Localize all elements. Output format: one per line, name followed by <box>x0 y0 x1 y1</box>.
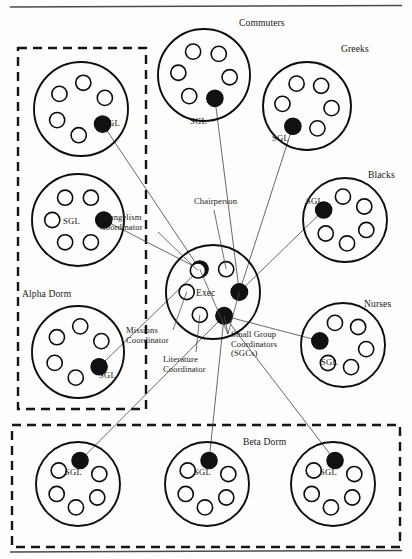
sgl-label-nurses: SGL <box>321 357 338 367</box>
group-leader-greeks <box>285 118 301 134</box>
group-member-alpha-2-2 <box>58 235 73 250</box>
small-group-alpha-1[interactable] <box>34 62 128 156</box>
sgl-label-beta-3: SGL <box>320 467 337 477</box>
exec-label: Exec <box>196 288 215 299</box>
top-rule <box>10 6 402 8</box>
group-name-blacks: Blacks <box>368 170 395 181</box>
group-member-beta-2-4 <box>178 486 193 501</box>
small-group-blacks[interactable] <box>303 178 387 262</box>
annotation-evangelism-coordinator: EvangelismCoordinator <box>100 213 143 232</box>
group-member-beta-2-1 <box>221 466 236 481</box>
annotation-evangelism-coordinator-line-1: Coordinator <box>100 223 143 233</box>
group-member-beta-1-3 <box>68 500 83 515</box>
sgl-label-greeks: SGL <box>272 133 289 143</box>
group-member-nurses-3 <box>359 341 374 356</box>
group-member-alpha-2-1 <box>83 235 98 250</box>
group-member-commuters-3 <box>186 44 201 59</box>
group-member-alpha-1-4 <box>76 75 91 90</box>
group-member-alpha-3-4 <box>73 319 88 334</box>
sgl-label-alpha-2: SGL <box>63 216 80 226</box>
group-member-blacks-5 <box>318 226 333 241</box>
group-member-blacks-3 <box>359 222 374 237</box>
group-member-nurses-1 <box>327 315 342 330</box>
sgl-label-commuters: SGL <box>190 116 207 126</box>
annotation-small-group-coordinators-line-2: (SGCs) <box>231 349 277 359</box>
leader-line-sgc-0 <box>200 269 228 334</box>
group-name-greeks: Greeks <box>341 44 369 55</box>
small-group-beta-1[interactable] <box>36 442 120 526</box>
annotation-chairperson-line-0: Chairperson <box>194 197 237 207</box>
small-group-alpha-3[interactable] <box>32 306 124 398</box>
connector-lines <box>80 98 335 460</box>
group-member-alpha-2-4 <box>58 190 73 205</box>
group-member-beta-3-3 <box>323 500 338 515</box>
group-member-alpha-1-2 <box>50 113 65 128</box>
group-member-alpha-2-3 <box>45 212 60 227</box>
group-box-label-alpha-dorm: Alpha Dorm <box>22 289 71 300</box>
group-member-greeks-2 <box>289 76 304 91</box>
small-group-beta-3[interactable] <box>291 442 375 526</box>
group-member-beta-2-3 <box>197 500 212 515</box>
annotation-literature-coordinator-line-1: Coordinator <box>163 365 206 375</box>
small-group-commuters[interactable] <box>158 29 250 121</box>
group-member-alpha-1-1 <box>71 128 86 143</box>
group-member-greeks-5 <box>310 121 325 136</box>
annotation-small-group-coordinators: Small GroupCoordinators(SGCs) <box>231 330 277 359</box>
group-member-blacks-2 <box>357 199 372 214</box>
group-member-beta-3-1 <box>347 466 362 481</box>
group-box-label-beta-dorm: Beta Dorm <box>243 437 286 448</box>
group-member-beta-1-2 <box>90 490 105 505</box>
sgl-label-blacks: SGL <box>306 196 323 206</box>
group-member-nurses-2 <box>351 319 366 334</box>
sgl-label-alpha-1: SGL <box>103 118 120 128</box>
annotation-leader-lines <box>158 210 239 352</box>
group-member-beta-3-4 <box>304 486 319 501</box>
leader-line-chairperson <box>214 210 226 269</box>
group-member-beta-3-2 <box>345 490 360 505</box>
group-member-alpha-3-1 <box>68 370 83 385</box>
sgl-label-alpha-3: SGL <box>99 370 116 380</box>
group-leader-nurses <box>312 333 328 349</box>
annotation-missions-coordinator-line-1: Coordinator <box>126 336 169 346</box>
group-name-nurses: Nurses <box>364 299 391 310</box>
annotation-literature-coordinator: LiteratureCoordinator <box>163 355 206 374</box>
group-member-commuters-5 <box>222 70 237 85</box>
group-name-commuters: Commuters <box>239 18 285 29</box>
diagram-canvas: SGLSGLSGLSGLCommutersSGLGreeksSGLBlacksS… <box>0 0 412 559</box>
group-member-blacks-1 <box>335 189 350 204</box>
group-member-commuters-4 <box>211 46 226 61</box>
group-member-beta-1-4 <box>49 486 64 501</box>
connector-greeks <box>239 126 293 292</box>
group-member-alpha-2-5 <box>83 190 98 205</box>
group-leader-commuters <box>207 90 223 106</box>
group-member-nurses-4 <box>343 360 358 375</box>
group-member-alpha-3-2 <box>47 355 62 370</box>
small-group-nurses[interactable] <box>301 303 385 387</box>
group-member-greeks-3 <box>314 78 329 93</box>
group-member-greeks-1 <box>275 96 290 111</box>
group-member-commuters-1 <box>182 89 197 104</box>
bottom-rule <box>10 551 402 553</box>
sgl-label-beta-1: SGL <box>65 467 82 477</box>
sgl-label-beta-2: SGL <box>194 467 211 477</box>
group-member-alpha-1-5 <box>97 90 112 105</box>
group-member-alpha-3-5 <box>94 334 109 349</box>
group-member-alpha-3-3 <box>49 330 64 345</box>
group-member-beta-1-1 <box>92 466 107 481</box>
group-member-beta-2-2 <box>219 490 234 505</box>
group-member-greeks-4 <box>324 101 339 116</box>
group-member-alpha-1-3 <box>52 86 67 101</box>
group-member-commuters-2 <box>171 65 186 80</box>
annotation-missions-coordinator: MissionsCoordinator <box>126 326 169 345</box>
group-member-blacks-4 <box>339 236 354 251</box>
small-group-beta-2[interactable] <box>165 442 249 526</box>
annotation-chairperson: Chairperson <box>194 197 237 207</box>
